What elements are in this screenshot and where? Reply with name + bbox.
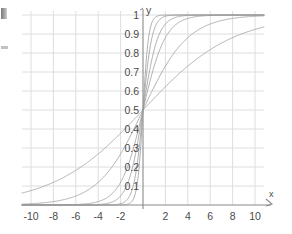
y-tick-label-8: 0.9 <box>124 28 139 40</box>
y-tick-label-4: 0.5 <box>124 104 139 116</box>
y-tick-label-1: 0.2 <box>124 161 139 173</box>
x-tick-label-3: -4 <box>94 210 103 222</box>
x-tick-label-9: 10 <box>249 210 261 222</box>
y-tick-label-6: 0.7 <box>124 66 139 78</box>
y-tick-label-7: 0.8 <box>124 47 139 59</box>
x-tick-label-6: 4 <box>185 210 191 222</box>
x-tick-label-2: -6 <box>71 210 80 222</box>
plot-area: -10-8-6-4-2246810 0.10.20.30.40.50.60.70… <box>0 0 292 234</box>
x-tick-label-4: -2 <box>116 210 125 222</box>
y-tick-label-2: 0.3 <box>124 142 139 154</box>
x-tick-label-0: -10 <box>23 210 38 222</box>
y-axis-title: y <box>146 4 152 16</box>
y-tick-label-5: 0.6 <box>124 85 139 97</box>
x-tick-label-7: 6 <box>207 210 213 222</box>
x-axis-title: x <box>269 189 274 199</box>
y-axis-tick-labels: 0.10.20.30.40.50.60.70.80.91 <box>124 9 139 192</box>
y-tick-label-9: 1 <box>133 9 139 21</box>
y-tick-label-3: 0.4 <box>124 123 139 135</box>
y-tick-label-0: 0.1 <box>124 180 139 192</box>
axis-lines <box>22 8 271 209</box>
x-tick-label-1: -8 <box>49 210 58 222</box>
x-tick-label-8: 8 <box>230 210 236 222</box>
sigmoid-family-chart: -10-8-6-4-2246810 0.10.20.30.40.50.60.70… <box>0 0 292 234</box>
x-axis-tick-labels: -10-8-6-4-2246810 <box>23 210 261 222</box>
x-tick-label-5: 2 <box>162 210 168 222</box>
